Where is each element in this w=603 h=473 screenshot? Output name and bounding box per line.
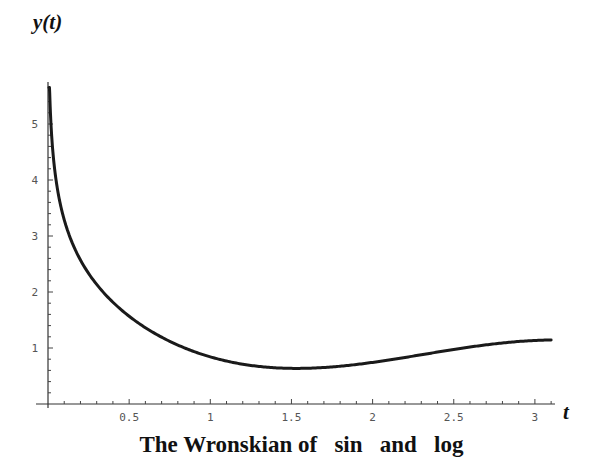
y-tick-label: 5 <box>31 118 38 131</box>
axes <box>36 82 555 408</box>
x-tick-label: 2 <box>369 411 376 424</box>
y-axis-label: y(t) <box>30 10 62 34</box>
wronskian-curve <box>49 88 551 369</box>
tick-labels: 0.511.522.5312345 <box>31 118 538 424</box>
y-tick-label: 4 <box>31 174 38 187</box>
x-tick-label: 0.5 <box>119 411 139 424</box>
x-tick-label: 2.5 <box>444 411 464 424</box>
y-tick-label: 3 <box>31 230 38 243</box>
ticks <box>48 90 551 404</box>
chart-canvas: 0.511.522.5312345 y(t) t <box>0 0 603 473</box>
x-tick-label: 3 <box>532 411 539 424</box>
x-tick-label: 1 <box>207 411 214 424</box>
chart-title: The Wronskian of sin and log <box>0 432 603 458</box>
y-tick-label: 2 <box>31 286 38 299</box>
y-tick-label: 1 <box>31 342 38 355</box>
x-tick-label: 1.5 <box>282 411 302 424</box>
x-axis-label: t <box>563 400 570 424</box>
